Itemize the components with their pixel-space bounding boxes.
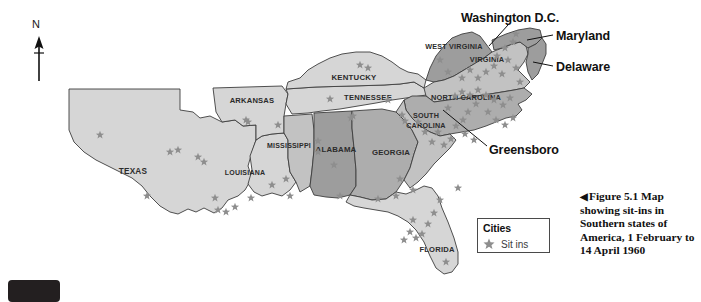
sit-in-marker <box>286 192 294 200</box>
caption-text: Figure 5.1 Map showing sit-ins in Southe… <box>580 190 695 256</box>
callout-label-maryland: Maryland <box>556 29 610 43</box>
state-label-mississippi: MISSISSIPPI <box>267 142 311 149</box>
sit-in-marker <box>247 194 255 202</box>
legend-title: Cities <box>483 222 511 234</box>
sit-in-marker <box>454 184 462 192</box>
state-label-louisiana: LOUISIANA <box>225 169 265 176</box>
map-legend: Cities Sit ins <box>477 218 550 253</box>
state-label-alabama: ALABAMA <box>316 145 357 154</box>
legend-entry-sit-ins: Sit ins <box>483 238 528 250</box>
state-label-south-carolina: SOUTH <box>413 111 439 120</box>
north-arrow: N <box>26 20 52 82</box>
north-arrow-icon <box>26 33 52 83</box>
callout-label-washington-dc: Washington D.C. <box>461 11 559 25</box>
state-label-south-carolina-2: CAROLINA <box>406 121 446 130</box>
state-label-texas: TEXAS <box>119 167 148 176</box>
state-label-west-virginia: WEST VIRGINIA <box>425 42 482 51</box>
callout-label-greensboro: Greensboro <box>489 143 559 157</box>
page-number-tab <box>8 280 60 302</box>
state-label-kentucky: KENTUCKY <box>332 73 378 82</box>
north-label: N <box>32 18 40 30</box>
state-label-georgia: GEORGIA <box>372 148 410 157</box>
state-label-north-carolina: NORTH CAROLINA <box>431 93 502 102</box>
sit-in-marker <box>400 236 408 244</box>
sit-in-marker <box>222 208 230 216</box>
state-label-tennessee: TENNESSEE <box>344 93 392 102</box>
sit-in-marker <box>406 228 414 236</box>
caption-arrow-icon: ◀ <box>580 191 588 202</box>
state-label-florida: FLORIDA <box>419 245 454 254</box>
star-icon <box>483 238 495 250</box>
callout-label-delaware: Delaware <box>556 60 610 74</box>
state-label-arkansas: ARKANSAS <box>230 96 275 105</box>
sit-in-marker <box>501 121 509 129</box>
sit-in-marker <box>231 203 239 211</box>
state-label-virginia: VIRGINIA <box>470 55 505 64</box>
legend-entry-label: Sit ins <box>501 239 528 250</box>
figure-caption: ◀Figure 5.1 Map showing sit-ins in South… <box>580 190 698 258</box>
sit-in-marker <box>470 136 478 144</box>
state-kentucky <box>286 52 426 89</box>
